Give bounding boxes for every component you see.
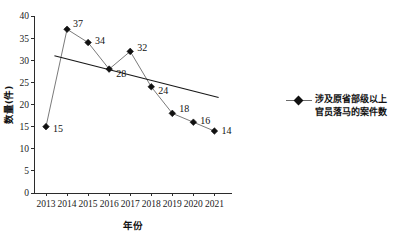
y-tick-label: 20 — [20, 100, 30, 110]
x-tick-label: 2013 — [37, 199, 56, 209]
y-tick-label: 10 — [20, 144, 30, 154]
x-tick-label: 2018 — [142, 199, 161, 209]
legend-item: 涉及原省部级以上 官员落马的案件数 — [286, 93, 404, 118]
x-tick-label: 2014 — [58, 199, 77, 209]
line-chart-svg: 0510152025303540 20132014201520162017201… — [0, 0, 408, 243]
x-tick-label: 2017 — [121, 199, 140, 209]
legend-label-line1: 涉及原省部级以上 — [315, 93, 387, 106]
data-point-label: 34 — [95, 35, 105, 46]
y-tick-label: 40 — [20, 11, 30, 21]
data-point-label: 28 — [116, 68, 126, 79]
data-point-labels: 153734283224181614 — [53, 18, 231, 136]
y-tick-label: 15 — [20, 122, 30, 132]
x-tick-label: 2019 — [163, 199, 182, 209]
chart-container: 0510152025303540 20132014201520162017201… — [0, 0, 408, 243]
data-point-marker — [43, 123, 50, 130]
series-line-path — [46, 29, 214, 131]
x-tick-label: 2015 — [79, 199, 98, 209]
y-axis-title: 数量(件) — [3, 86, 14, 126]
x-axis-title: 年份 — [123, 220, 143, 231]
data-point-label: 14 — [221, 125, 231, 136]
y-tick-label: 5 — [24, 166, 29, 176]
x-tick-label: 2020 — [184, 199, 203, 209]
data-point-markers — [43, 26, 218, 134]
data-point-marker — [64, 26, 71, 33]
y-tick-label: 35 — [20, 34, 30, 44]
data-point-label: 16 — [200, 115, 210, 126]
data-point-label: 18 — [179, 103, 189, 114]
y-tick-label: 30 — [20, 56, 30, 66]
data-point-label: 24 — [158, 85, 168, 96]
x-tick-label: 2021 — [205, 199, 224, 209]
chart-legend: 涉及原省部级以上 官员落马的案件数 — [286, 93, 404, 118]
legend-marker-icon — [286, 94, 312, 107]
legend-label: 涉及原省部级以上 官员落马的案件数 — [315, 93, 387, 118]
legend-label-line2: 官员落马的案件数 — [315, 106, 387, 119]
x-axis-tick-labels: 201320142015201620172018201920202021 — [37, 199, 225, 209]
data-point-marker — [211, 128, 218, 135]
data-point-label: 15 — [53, 123, 63, 134]
x-tick-label: 2016 — [100, 199, 119, 209]
data-point-label: 37 — [73, 18, 83, 29]
y-tick-label: 0 — [24, 188, 29, 198]
y-tick-label: 25 — [20, 78, 30, 88]
data-point-marker — [190, 119, 197, 126]
y-axis-tick-labels: 0510152025303540 — [20, 11, 30, 198]
data-point-label: 32 — [137, 42, 147, 53]
